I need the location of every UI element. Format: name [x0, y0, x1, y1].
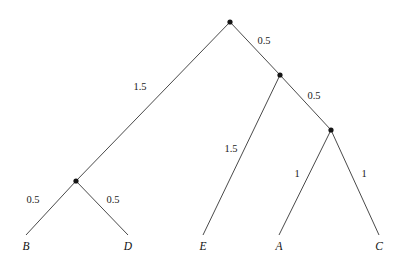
tree-branch-root-to-n_bd [76, 22, 230, 181]
leaf-labels-group: BDEAC [22, 240, 383, 252]
branch-length-label-e_root_n2: 0.5 [257, 35, 270, 46]
internal-node-root [227, 19, 232, 24]
taxon-label-A: A [274, 240, 283, 252]
tree-branch-n_bd-to-leaf_D [76, 181, 128, 235]
taxon-label-E: E [198, 240, 206, 252]
tree-branch-n2-to-leaf_E [203, 75, 280, 235]
taxon-label-D: D [123, 240, 133, 252]
node-dots-group [73, 19, 333, 183]
branch-length-label-e_n3_C: 1 [361, 168, 366, 179]
tree-branch-n3-to-leaf_C [331, 130, 379, 235]
internal-node-n3 [328, 127, 333, 132]
tree-branch-n_bd-to-leaf_B [26, 181, 76, 235]
branch-length-label-e_n2_E: 1.5 [224, 143, 237, 154]
phylogenetic-tree-figure: 1.50.51.50.5110.50.5 BDEAC [0, 0, 403, 268]
branch-length-label-e_root_nbd: 1.5 [133, 81, 146, 92]
branch-length-label-e_nbd_B: 0.5 [26, 194, 39, 205]
internal-node-n2 [277, 72, 282, 77]
branch-length-label-e_nbd_D: 0.5 [106, 194, 119, 205]
internal-node-n_bd [73, 178, 78, 183]
tree-canvas: 1.50.51.50.5110.50.5 BDEAC [0, 0, 403, 268]
taxon-label-C: C [375, 240, 383, 252]
taxon-label-B: B [22, 240, 29, 252]
branch-length-label-e_n2_n3: 0.5 [307, 90, 320, 101]
tree-branch-n2-to-n3 [280, 75, 331, 130]
tree-branch-root-to-n2 [230, 22, 280, 75]
branch-lines-group [26, 22, 379, 235]
tree-branch-n3-to-leaf_A [279, 130, 331, 235]
branch-length-label-e_n3_A: 1 [294, 168, 299, 179]
